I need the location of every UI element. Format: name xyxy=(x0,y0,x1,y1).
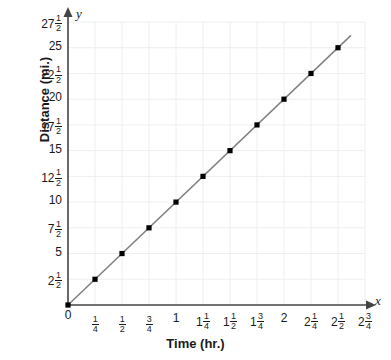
x-axis-title: Time (hr.) xyxy=(0,336,391,351)
y-tick-label: 5 xyxy=(55,246,62,258)
data-point-marker xyxy=(173,199,178,204)
data-point-marker xyxy=(119,251,124,256)
data-point-marker xyxy=(65,302,70,307)
data-point-marker xyxy=(200,174,205,179)
data-point-marker xyxy=(281,97,286,102)
data-point-marker xyxy=(146,225,151,230)
data-point-marker xyxy=(92,277,97,282)
data-point-marker xyxy=(335,45,340,50)
y-tick-label: 212 xyxy=(48,271,62,290)
y-tick-label: 10 xyxy=(49,194,62,206)
x-tick-label: 234 xyxy=(349,312,381,331)
y-tick-label: 712 xyxy=(48,220,62,239)
y-axis-arrowhead xyxy=(64,7,73,17)
data-point-marker xyxy=(308,71,313,76)
distance-time-line-chart: y x 2712252212201712151212107125212 0141… xyxy=(0,0,391,360)
data-point-marker xyxy=(254,122,259,127)
y-axis-letter: y xyxy=(76,6,82,22)
y-axis-title: Distance (mi.) xyxy=(37,10,52,190)
x-axis-letter: x xyxy=(375,293,381,309)
data-point-marker xyxy=(227,148,232,153)
